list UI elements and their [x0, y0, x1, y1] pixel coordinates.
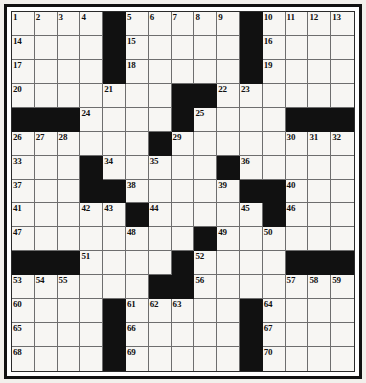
grid-cell[interactable] — [149, 323, 172, 347]
grid-cell[interactable] — [263, 275, 286, 299]
grid-cell[interactable] — [217, 108, 240, 132]
grid-cell[interactable]: 8 — [194, 12, 217, 36]
grid-cell[interactable] — [217, 60, 240, 84]
grid-cell[interactable]: 13 — [331, 12, 354, 36]
grid-cell[interactable] — [263, 156, 286, 180]
grid-cell[interactable] — [126, 108, 149, 132]
grid-cell[interactable]: 18 — [126, 60, 149, 84]
grid-cell[interactable]: 46 — [286, 203, 309, 227]
grid-cell[interactable] — [103, 132, 126, 156]
grid-cell[interactable] — [103, 251, 126, 275]
grid-cell[interactable] — [58, 84, 81, 108]
grid-cell[interactable] — [286, 347, 309, 371]
grid-cell[interactable]: 2 — [35, 12, 58, 36]
grid-cell[interactable]: 15 — [126, 36, 149, 60]
grid-cell[interactable] — [58, 156, 81, 180]
grid-cell[interactable]: 19 — [263, 60, 286, 84]
grid-cell[interactable]: 5 — [126, 12, 149, 36]
grid-cell[interactable] — [149, 84, 172, 108]
grid-cell[interactable] — [286, 36, 309, 60]
grid-cell[interactable] — [240, 108, 263, 132]
grid-cell[interactable]: 20 — [12, 84, 35, 108]
grid-cell[interactable]: 47 — [12, 227, 35, 251]
grid-cell[interactable] — [172, 227, 195, 251]
grid-cell[interactable]: 17 — [12, 60, 35, 84]
grid-cell[interactable]: 62 — [149, 299, 172, 323]
grid-cell[interactable]: 45 — [240, 203, 263, 227]
grid-cell[interactable]: 32 — [331, 132, 354, 156]
grid-cell[interactable]: 54 — [35, 275, 58, 299]
grid-cell[interactable] — [194, 60, 217, 84]
grid-cell[interactable] — [58, 227, 81, 251]
grid-cell[interactable] — [58, 203, 81, 227]
grid-cell[interactable] — [35, 299, 58, 323]
grid-cell[interactable] — [217, 251, 240, 275]
grid-cell[interactable] — [58, 36, 81, 60]
grid-cell[interactable] — [263, 132, 286, 156]
grid-cell[interactable]: 57 — [286, 275, 309, 299]
grid-cell[interactable]: 65 — [12, 323, 35, 347]
grid-cell[interactable] — [194, 203, 217, 227]
grid-cell[interactable]: 49 — [217, 227, 240, 251]
grid-cell[interactable] — [103, 275, 126, 299]
grid-cell[interactable] — [194, 323, 217, 347]
grid-cell[interactable] — [217, 275, 240, 299]
grid-cell[interactable] — [149, 36, 172, 60]
grid-cell[interactable] — [80, 36, 103, 60]
grid-cell[interactable] — [308, 84, 331, 108]
grid-cell[interactable] — [331, 323, 354, 347]
grid-cell[interactable] — [35, 347, 58, 371]
grid-cell[interactable]: 63 — [172, 299, 195, 323]
grid-cell[interactable]: 52 — [194, 251, 217, 275]
grid-cell[interactable] — [80, 132, 103, 156]
grid-cell[interactable]: 67 — [263, 323, 286, 347]
grid-cell[interactable] — [80, 299, 103, 323]
grid-cell[interactable] — [331, 299, 354, 323]
grid-cell[interactable] — [194, 36, 217, 60]
grid-cell[interactable] — [149, 180, 172, 204]
grid-cell[interactable] — [331, 180, 354, 204]
grid-cell[interactable]: 39 — [217, 180, 240, 204]
grid-cell[interactable] — [172, 323, 195, 347]
grid-cell[interactable]: 25 — [194, 108, 217, 132]
grid-cell[interactable]: 40 — [286, 180, 309, 204]
grid-cell[interactable] — [308, 323, 331, 347]
grid-cell[interactable] — [35, 60, 58, 84]
grid-cell[interactable]: 27 — [35, 132, 58, 156]
grid-cell[interactable] — [263, 108, 286, 132]
grid-cell[interactable] — [286, 156, 309, 180]
grid-cell[interactable]: 21 — [103, 84, 126, 108]
grid-cell[interactable]: 14 — [12, 36, 35, 60]
grid-cell[interactable] — [286, 227, 309, 251]
grid-cell[interactable]: 22 — [217, 84, 240, 108]
grid-cell[interactable]: 38 — [126, 180, 149, 204]
grid-cell[interactable] — [58, 299, 81, 323]
grid-cell[interactable] — [172, 347, 195, 371]
grid-cell[interactable] — [194, 132, 217, 156]
grid-cell[interactable]: 12 — [308, 12, 331, 36]
grid-cell[interactable]: 3 — [58, 12, 81, 36]
grid-cell[interactable]: 56 — [194, 275, 217, 299]
grid-cell[interactable] — [217, 323, 240, 347]
grid-cell[interactable] — [58, 180, 81, 204]
grid-cell[interactable]: 29 — [172, 132, 195, 156]
grid-cell[interactable]: 6 — [149, 12, 172, 36]
grid-cell[interactable]: 58 — [308, 275, 331, 299]
grid-cell[interactable] — [149, 347, 172, 371]
grid-cell[interactable] — [149, 60, 172, 84]
grid-cell[interactable] — [58, 347, 81, 371]
grid-cell[interactable] — [58, 323, 81, 347]
grid-cell[interactable] — [331, 227, 354, 251]
grid-cell[interactable] — [217, 132, 240, 156]
grid-cell[interactable] — [240, 132, 263, 156]
grid-cell[interactable]: 33 — [12, 156, 35, 180]
grid-cell[interactable]: 42 — [80, 203, 103, 227]
grid-cell[interactable] — [103, 227, 126, 251]
grid-cell[interactable] — [35, 180, 58, 204]
grid-cell[interactable] — [58, 60, 81, 84]
grid-cell[interactable] — [80, 84, 103, 108]
grid-cell[interactable] — [194, 299, 217, 323]
grid-cell[interactable]: 7 — [172, 12, 195, 36]
grid-cell[interactable] — [217, 299, 240, 323]
grid-cell[interactable] — [308, 347, 331, 371]
